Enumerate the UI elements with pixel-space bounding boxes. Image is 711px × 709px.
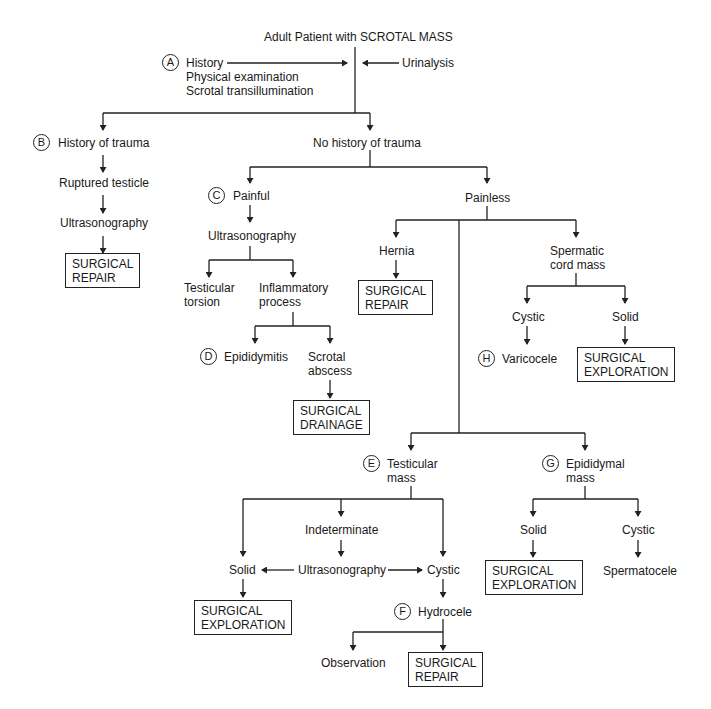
surgical-repair-hydrocele-box: SURGICAL REPAIR (408, 652, 483, 687)
no-history-of-trauma: No history of trauma (313, 136, 421, 150)
step-a-marker: A (162, 54, 179, 71)
title: Adult Patient with SCROTAL MASS (264, 30, 453, 44)
cystic-g: Cystic (622, 523, 655, 537)
surgical-exploration-epididymal-box: SURGICAL EXPLORATION (485, 560, 583, 595)
surgical-drainage-box: SURGICAL DRAINAGE (293, 400, 370, 435)
cystic-e: Cystic (427, 563, 460, 577)
surgical-repair-hernia-box: SURGICAL REPAIR (358, 280, 433, 315)
observation-label: Observation (321, 656, 386, 670)
ultrasonography-b: Ultrasonography (60, 216, 148, 230)
step-h-marker: H (478, 350, 495, 367)
history-label: History (186, 56, 223, 70)
testicular-mass: Testicular mass (387, 457, 438, 485)
inflammatory-process: Inflammatory process (259, 281, 328, 309)
spermatic-cystic: Cystic (512, 310, 545, 324)
epididymitis-label: Epididymitis (224, 350, 288, 364)
ultrasonography-c: Ultrasonography (208, 229, 296, 243)
ultrasonography-e: Ultrasonography (298, 563, 386, 577)
indeterminate-label: Indeterminate (305, 523, 378, 537)
hydrocele-label: Hydrocele (418, 605, 472, 619)
surgical-exploration-testicular-box: SURGICAL EXPLORATION (194, 600, 292, 635)
hernia-label: Hernia (379, 244, 414, 258)
step-g-marker: G (542, 455, 559, 472)
varicocele-label: Varicocele (502, 352, 557, 366)
step-d-marker: D (200, 348, 217, 365)
spermatic-solid: Solid (612, 310, 639, 324)
step-f-marker: F (394, 603, 411, 620)
testicular-torsion: Testicular torsion (184, 281, 235, 309)
scrotal-mass-flowchart: Adult Patient with SCROTAL MASS A Histor… (0, 0, 711, 709)
transillumination-label: Scrotal transillumination (186, 84, 313, 98)
epididymal-mass: Epididymal mass (566, 457, 625, 485)
spermatic-cord-mass: Spermatic cord mass (550, 244, 605, 272)
painful-label: Painful (233, 189, 270, 203)
surgical-repair-b-box: SURGICAL REPAIR (65, 253, 140, 288)
solid-g: Solid (520, 523, 547, 537)
history-of-trauma: History of trauma (58, 136, 149, 150)
step-b-marker: B (33, 134, 50, 151)
step-c-marker: C (208, 187, 225, 204)
urinalysis-label: Urinalysis (402, 56, 454, 70)
physical-exam-label: Physical examination (186, 70, 299, 84)
spermatocele-label: Spermatocele (603, 564, 677, 578)
scrotal-abscess: Scrotal abscess (308, 350, 352, 378)
solid-e: Solid (229, 563, 256, 577)
painless-label: Painless (465, 191, 510, 205)
step-e-marker: E (363, 455, 380, 472)
ruptured-testicle: Ruptured testicle (59, 176, 149, 190)
surgical-exploration-spermatic-box: SURGICAL EXPLORATION (577, 347, 675, 382)
